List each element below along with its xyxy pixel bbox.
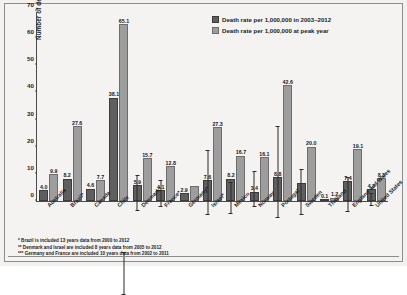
bar: 3.4 <box>250 192 259 201</box>
bar-value-label: 9.9 <box>50 169 57 174</box>
y-tick-label: 10 <box>27 163 34 170</box>
footnote-1: ** Denmark and Israel are included 8 yea… <box>18 245 388 252</box>
error-bar <box>254 171 255 206</box>
bar-value-label: 8.2 <box>63 173 70 178</box>
bar-groups: 4.09.98.227.64.67.738.165.15.915.74.112.… <box>37 12 388 201</box>
bar-value-label: 16.7 <box>236 150 246 155</box>
bar-value-label: 16.1 <box>259 152 269 157</box>
y-tick-label: 40 <box>27 82 34 89</box>
error-bar <box>123 252 124 295</box>
bar: 8.8 <box>273 177 282 201</box>
x-label-cell: France* <box>153 203 176 237</box>
x-label-cell: Norway <box>247 203 270 237</box>
bar-value-label: 20.0 <box>306 141 316 146</box>
x-label-cell: Brazil* <box>59 203 82 237</box>
bar-group: 3.416.1 <box>248 12 271 201</box>
x-label-cell: Thailand <box>318 203 341 237</box>
y-tick-mark <box>35 10 38 11</box>
bar-value-label: 19.1 <box>353 144 363 149</box>
bar-value-label: 15.7 <box>142 153 152 158</box>
bar-value-label: 42.6 <box>283 80 293 85</box>
bar: 4.0 <box>39 190 48 201</box>
chart-legend: Death rate per 1,000,000 in 2003–2012 De… <box>212 16 331 38</box>
footnote-divider <box>8 256 399 257</box>
x-label-cell: Canada <box>83 203 106 237</box>
bar-group: 8.227.6 <box>60 12 83 201</box>
legend-label-0: Death rate per 1,000,000 in 2003–2012 <box>222 16 331 23</box>
y-tick-label: 50 <box>27 55 34 62</box>
bar-value-label: 7.7 <box>97 175 104 180</box>
x-label-cell: Sweden <box>294 203 317 237</box>
y-tick-label: 70 <box>27 1 34 8</box>
y-tick-label: 60 <box>27 28 34 35</box>
bar: 38.1 <box>109 98 118 201</box>
bar-group: 4.112.8 <box>154 12 177 201</box>
y-tick-label: 30 <box>27 109 34 116</box>
bar-group: 4.09.9 <box>37 12 60 201</box>
legend-item-1: Death rate per 1,000,000 at peak year <box>212 27 331 34</box>
bar: 27.3 <box>213 127 222 201</box>
x-label-cell: Denmark* <box>130 203 153 237</box>
bar-group: 2.9 <box>177 12 200 201</box>
y-tick-label: 0 <box>31 191 34 198</box>
bar-group: 5.915.7 <box>131 12 154 201</box>
bar-group: 4.67.7 <box>84 12 107 201</box>
footnotes: * Brazil is included 13 years data from … <box>18 238 388 258</box>
bar-group: 7.627.3 <box>201 12 224 201</box>
bar-value-label: 12.8 <box>166 161 176 166</box>
bar-value-label: 4.0 <box>40 185 47 190</box>
bar: 65.1 <box>119 24 128 201</box>
legend-label-1: Death rate per 1,000,000 at peak year <box>222 27 329 34</box>
bar-value-label: 4.6 <box>87 183 94 188</box>
bar-value-label: 65.1 <box>119 19 129 24</box>
bar-group: 38.165.1 <box>107 12 130 201</box>
bar-group: 20.0 <box>294 12 317 201</box>
x-label-cell: Israel* <box>200 203 223 237</box>
bar-value-label: 38.1 <box>109 92 119 97</box>
bar-value-label: 8.2 <box>227 173 234 178</box>
bar-group: 0.11.2 <box>318 12 341 201</box>
bar: 0.1 <box>320 199 329 201</box>
legend-item-0: Death rate per 1,000,000 in 2003–2012 <box>212 16 331 23</box>
chart-plot-area: Number of deaths at peak year 0102030405… <box>36 12 388 202</box>
x-label-cell: England and Wales <box>341 203 364 237</box>
bar: 27.6 <box>73 126 82 201</box>
legend-swatch-icon <box>212 16 219 23</box>
bar-group: 8.842.6 <box>271 12 294 201</box>
bar-value-label: 27.3 <box>212 122 222 127</box>
x-label-cell: Germany* <box>177 203 200 237</box>
bar-value-label: 27.6 <box>72 121 82 126</box>
x-axis-labels: AustraliaBrazil*CanadaChileDenmark*Franc… <box>36 203 388 237</box>
legend-swatch-icon <box>212 27 219 34</box>
x-label-cell: Chile <box>106 203 129 237</box>
bar: 5.9 <box>133 185 142 201</box>
bar-group: 8.216.7 <box>224 12 247 201</box>
bar-group: 7.419.1 <box>341 12 364 201</box>
x-label-cell: Mexico <box>224 203 247 237</box>
footnote-0: * Brazil is included 13 years data from … <box>18 238 388 245</box>
bar: 4.6 <box>86 189 95 201</box>
bar: 42.6 <box>283 85 292 201</box>
x-label-cell: Portugal <box>271 203 294 237</box>
x-label-cell: United States <box>365 203 388 237</box>
x-label-cell: Australia <box>36 203 59 237</box>
bar: 8.2 <box>226 179 235 201</box>
y-tick-label: 20 <box>27 136 34 143</box>
